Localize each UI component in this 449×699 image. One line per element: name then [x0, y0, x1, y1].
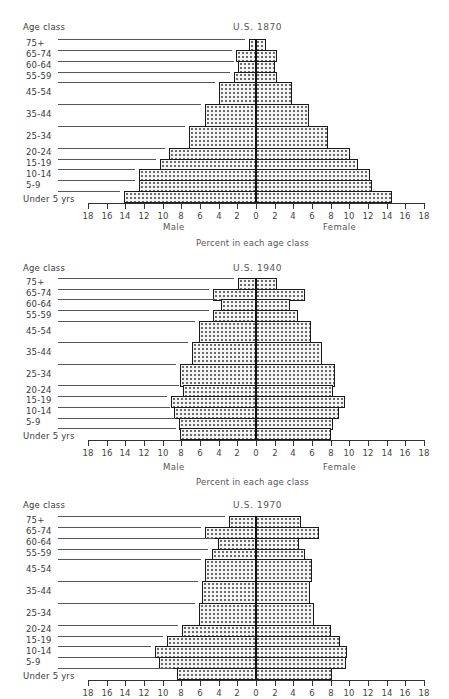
age-class-label: 15-19	[26, 635, 52, 645]
row-guide-line	[58, 516, 225, 517]
y-axis-title: Age class	[23, 500, 65, 510]
x-tick-label: 2	[227, 688, 247, 698]
bar-male	[177, 668, 256, 680]
row-guide-line	[58, 603, 195, 604]
x-tick	[331, 680, 332, 686]
x-tick-label: 16	[395, 688, 415, 698]
bar-female	[256, 603, 314, 626]
x-tick-label: 6	[302, 688, 322, 698]
age-class-label: 35-44	[26, 586, 52, 596]
x-tick	[256, 680, 257, 686]
row-guide-line	[58, 636, 163, 637]
age-class-label: 55-59	[26, 548, 52, 558]
x-tick-label: 14	[115, 688, 135, 698]
x-tick-label: 12	[358, 688, 378, 698]
age-class-label: Under 5 yrs	[23, 671, 75, 681]
bar-female	[256, 668, 332, 680]
x-tick	[405, 680, 406, 686]
x-tick	[200, 680, 201, 686]
row-guide-line	[58, 646, 151, 647]
row-guide-line	[58, 668, 173, 669]
row-guide-line	[58, 581, 198, 582]
x-tick	[144, 680, 145, 686]
x-tick-label: 4	[209, 688, 229, 698]
x-tick	[219, 680, 220, 686]
x-tick-label: 12	[134, 688, 154, 698]
bar-male	[205, 559, 256, 582]
age-class-label: 20-24	[26, 624, 52, 634]
x-tick	[293, 680, 294, 686]
x-tick-label: 2	[265, 688, 285, 698]
age-class-label: 65-74	[26, 526, 52, 536]
x-tick	[387, 680, 388, 686]
x-tick-label: 14	[377, 688, 397, 698]
x-tick	[349, 680, 350, 686]
chart-title: U.S. 1970	[233, 500, 282, 510]
x-tick-label: 4	[283, 688, 303, 698]
x-tick	[237, 680, 238, 686]
x-tick-label: 10	[153, 688, 173, 698]
x-tick	[312, 680, 313, 686]
x-tick	[368, 680, 369, 686]
row-guide-line	[58, 538, 214, 539]
bar-male	[199, 603, 256, 626]
x-tick-label: 6	[190, 688, 210, 698]
x-tick	[181, 680, 182, 686]
row-guide-line	[58, 549, 208, 550]
x-tick-label: 8	[171, 688, 191, 698]
age-class-label: 25-34	[26, 608, 52, 618]
age-class-label: 60-64	[26, 537, 52, 547]
x-tick-label: 18	[78, 688, 98, 698]
x-tick-label: 0	[246, 688, 266, 698]
bar-male	[202, 581, 256, 604]
x-tick	[125, 680, 126, 686]
bar-female	[256, 581, 310, 604]
row-guide-line	[58, 657, 155, 658]
pyramid-1970: Age class U.S. 1970 75+65-7460-6455-5945…	[0, 0, 449, 699]
center-axis-line	[255, 516, 257, 680]
x-tick	[163, 680, 164, 686]
row-guide-line	[58, 527, 201, 528]
bar-female	[256, 559, 312, 582]
x-tick-label: 10	[339, 688, 359, 698]
x-tick	[107, 680, 108, 686]
x-tick	[88, 680, 89, 686]
row-guide-line	[58, 559, 201, 560]
x-tick-label: 8	[321, 688, 341, 698]
x-tick	[424, 680, 425, 686]
age-class-label: 5-9	[26, 657, 40, 667]
age-class-label: 75+	[26, 515, 45, 525]
x-tick-label: 18	[414, 688, 434, 698]
age-class-label: 10-14	[26, 646, 52, 656]
age-class-label: 45-54	[26, 564, 52, 574]
row-guide-line	[58, 625, 178, 626]
x-tick	[275, 680, 276, 686]
x-tick-label: 16	[97, 688, 117, 698]
